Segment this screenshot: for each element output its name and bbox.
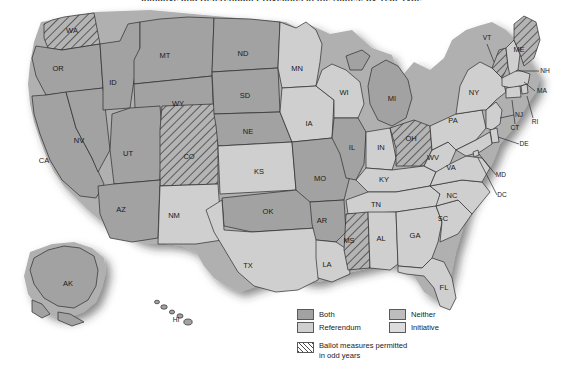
state-label-TN: TN xyxy=(371,200,381,209)
legend-label-odd-years: Ballot measures permitted in odd years xyxy=(319,341,407,360)
state-label-GA: GA xyxy=(410,231,421,240)
state-label-WY: WY xyxy=(172,99,184,108)
state-label-MO: MO xyxy=(314,174,326,183)
state-label-OR: OR xyxy=(52,64,64,73)
state-label-IA: IA xyxy=(305,119,312,128)
state-label-SD: SD xyxy=(240,91,251,100)
legend-label-both: Both xyxy=(319,310,335,319)
state-label-WI: WI xyxy=(339,88,348,97)
state-CT[interactable] xyxy=(506,86,521,98)
state-MT[interactable] xyxy=(134,17,214,84)
state-label-MA: MA xyxy=(537,87,547,94)
state-label-NC: NC xyxy=(447,191,458,200)
legend-swatch-initiative xyxy=(389,322,406,333)
state-label-NV: NV xyxy=(74,136,84,145)
state-label-AL: AL xyxy=(376,234,385,243)
legend-label-referendum: Referendum xyxy=(319,323,361,332)
legend-swatch-both xyxy=(297,309,314,320)
state-label-ID: ID xyxy=(109,78,117,87)
state-label-VA: VA xyxy=(446,163,455,172)
legend-item-initiative: Initiative xyxy=(389,322,481,333)
state-label-MD: MD xyxy=(496,171,506,178)
state-label-DC: DC xyxy=(497,191,507,198)
state-label-DE: DE xyxy=(519,140,529,147)
state-label-MN: MN xyxy=(291,64,303,73)
state-label-MT: MT xyxy=(160,51,171,60)
state-label-PA: PA xyxy=(448,116,457,125)
state-label-AR: AR xyxy=(317,216,328,225)
state-label-TX: TX xyxy=(243,261,253,270)
state-label-CT: CT xyxy=(511,124,520,131)
state-AR[interactable] xyxy=(310,200,346,242)
state-OH[interactable] xyxy=(390,120,432,166)
state-label-ME: ME xyxy=(513,45,524,54)
state-label-LA: LA xyxy=(322,260,331,269)
state-label-IN: IN xyxy=(377,143,385,152)
state-label-IL: IL xyxy=(349,143,355,152)
state-label-NJ: NJ xyxy=(515,111,523,118)
legend-item-both: Both xyxy=(297,309,389,320)
state-label-HI: HI xyxy=(173,316,180,323)
state-label-ND: ND xyxy=(238,49,249,58)
state-label-OK: OK xyxy=(263,207,274,216)
map-legend: Both Neither Referendum Initiative Ballo… xyxy=(297,308,497,360)
legend-item-referendum: Referendum xyxy=(297,322,389,333)
state-label-KY: KY xyxy=(379,175,389,184)
state-label-RI: RI xyxy=(532,118,539,125)
state-label-NY: NY xyxy=(469,88,479,97)
state-label-NE: NE xyxy=(243,127,253,136)
legend-swatch-odd-years xyxy=(297,342,314,353)
state-label-VT: VT xyxy=(483,34,491,41)
legend-label-odd-years-line2: in odd years xyxy=(319,351,360,360)
state-ND[interactable] xyxy=(212,18,280,72)
state-AZ[interactable] xyxy=(98,180,160,242)
state-label-AZ: AZ xyxy=(116,205,126,214)
state-label-OH: OH xyxy=(405,134,416,143)
legend-label-initiative: Initiative xyxy=(411,323,439,332)
legend-item-odd-years: Ballot measures permitted in odd years xyxy=(297,341,497,360)
state-MN[interactable] xyxy=(278,22,322,88)
legend-item-neither: Neither xyxy=(389,309,481,320)
state-label-MI: MI xyxy=(388,94,396,103)
state-label-WV: WV xyxy=(427,153,439,162)
legend-label-odd-years-line1: Ballot measures permitted xyxy=(319,341,407,350)
state-label-CO: CO xyxy=(183,152,194,161)
legend-swatch-neither xyxy=(389,309,406,320)
state-RI[interactable] xyxy=(521,84,528,94)
state-CO[interactable] xyxy=(160,104,218,186)
state-OR[interactable] xyxy=(32,44,103,95)
state-label-UT: UT xyxy=(123,149,133,158)
state-label-WA: WA xyxy=(66,26,78,35)
legend-row: Both Neither xyxy=(297,308,497,320)
map-figure: Initiative and Referendum Provisions in … xyxy=(0,0,563,379)
state-label-NH: NH xyxy=(540,67,550,74)
state-label-SC: SC xyxy=(438,214,449,223)
state-label-AK: AK xyxy=(63,279,73,288)
state-UT[interactable] xyxy=(110,106,162,184)
state-label-CA: CA xyxy=(39,156,49,165)
legend-label-neither: Neither xyxy=(411,310,435,319)
state-label-NM: NM xyxy=(168,211,180,220)
legend-swatch-referendum xyxy=(297,322,314,333)
state-label-MS: MS xyxy=(343,236,354,245)
state-label-KS: KS xyxy=(254,167,264,176)
legend-row: Referendum Initiative xyxy=(297,321,497,333)
state-label-FL: FL xyxy=(440,283,449,292)
